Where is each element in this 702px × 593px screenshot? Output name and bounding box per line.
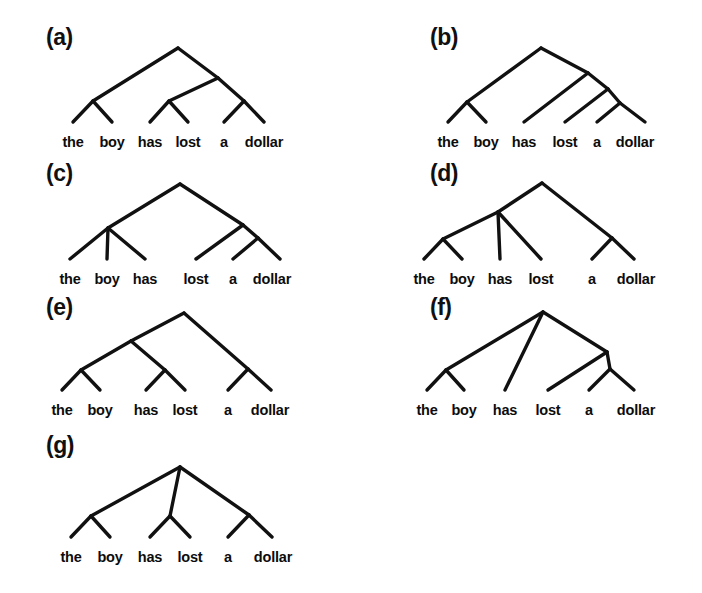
- leaf-word-c-0: the: [59, 271, 80, 287]
- leaf-word-d-3: lost: [529, 271, 554, 287]
- tree-edge-g-4: [170, 516, 190, 537]
- tree-edge-c-1: [107, 228, 108, 259]
- tree-edge-b-1: [467, 102, 486, 122]
- tree-edge-b-0: [448, 102, 467, 122]
- panel-label-b: (b): [430, 24, 458, 51]
- leaf-word-g-0: the: [60, 549, 81, 565]
- tree-edge-e-6: [131, 313, 184, 341]
- leaf-word-g-2: has: [138, 549, 162, 565]
- tree-edge-e-9: [184, 313, 248, 369]
- leaf-word-e-3: lost: [173, 402, 198, 418]
- leaf-word-a-5: dollar: [245, 134, 283, 150]
- tree-edge-f-7: [610, 369, 634, 390]
- tree-edge-a-6: [224, 101, 244, 122]
- leaf-word-a-4: a: [220, 134, 228, 150]
- tree-edge-e-8: [248, 369, 271, 390]
- leaf-word-d-5: dollar: [617, 271, 655, 287]
- tree-edge-b-6: [588, 73, 608, 89]
- tree-edge-g-7: [249, 515, 272, 537]
- tree-edge-a-2: [93, 48, 178, 101]
- leaf-word-d-1: boy: [449, 271, 474, 287]
- leaf-word-g-1: boy: [97, 549, 122, 565]
- tree-edge-g-3: [150, 516, 170, 537]
- tree-edge-b-9: [608, 89, 620, 103]
- panel-label-c: (c): [46, 160, 73, 187]
- tree-edge-d-7: [612, 238, 634, 259]
- leaf-word-f-1: boy: [451, 402, 476, 418]
- leaf-word-f-5: dollar: [617, 402, 655, 418]
- tree-edge-d-0: [424, 239, 443, 259]
- leaf-word-c-3: lost: [184, 271, 209, 287]
- tree-edge-f-5: [548, 352, 607, 390]
- tree-edge-e-2: [81, 341, 131, 370]
- tree-edge-a-0: [73, 101, 93, 122]
- tree-edge-b-8: [620, 103, 645, 122]
- tree-edge-d-6: [592, 238, 612, 259]
- tree-edge-f-0: [427, 370, 446, 390]
- tree-edge-e-7: [228, 369, 248, 390]
- leaf-word-e-1: boy: [87, 402, 112, 418]
- tree-edge-a-1: [93, 101, 112, 122]
- tree-edge-c-0: [70, 228, 108, 259]
- tree-edge-d-8: [542, 183, 612, 238]
- tree-edge-d-4: [498, 212, 541, 259]
- tree-edge-e-1: [81, 370, 100, 390]
- tree-edge-a-5: [169, 78, 218, 101]
- leaf-word-b-4: a: [593, 134, 601, 150]
- leaf-word-e-4: a: [224, 402, 232, 418]
- tree-edge-b-7: [597, 103, 620, 122]
- tree-edges-c: [70, 184, 280, 259]
- tree-edge-g-0: [71, 516, 91, 537]
- tree-edge-g-5: [170, 467, 180, 516]
- panel-label-e: (e): [46, 294, 73, 321]
- tree-edge-f-1: [446, 370, 464, 390]
- leaf-word-c-1: boy: [94, 271, 119, 287]
- tree-edge-a-7: [244, 101, 264, 122]
- tree-edge-d-2: [443, 212, 498, 239]
- tree-edges-e: [62, 313, 271, 390]
- leaf-word-g-4: a: [224, 549, 232, 565]
- leaf-word-e-5: dollar: [251, 402, 289, 418]
- tree-edge-c-4: [196, 225, 243, 259]
- tree-edge-a-4: [169, 101, 188, 122]
- tree-edges-d: [424, 183, 634, 259]
- tree-edges-b: [448, 48, 645, 122]
- tree-edge-a-8: [218, 78, 244, 101]
- tree-edge-e-5: [131, 341, 165, 370]
- leaf-word-d-0: the: [413, 271, 434, 287]
- leaf-word-b-3: lost: [553, 134, 578, 150]
- tree-edge-c-8: [243, 225, 258, 238]
- tree-figure-canvas: (a)theboyhaslostadollar(b)theboyhaslosta…: [0, 0, 702, 593]
- leaf-word-b-0: the: [437, 134, 458, 150]
- tree-edge-c-2: [108, 228, 145, 259]
- leaf-word-g-5: dollar: [254, 549, 292, 565]
- tree-edge-c-7: [258, 238, 280, 259]
- tree-edge-c-3: [108, 184, 180, 228]
- leaf-word-d-2: has: [488, 271, 512, 287]
- tree-edge-c-6: [233, 238, 258, 259]
- tree-edge-d-3: [498, 212, 500, 259]
- leaf-word-g-3: lost: [178, 549, 203, 565]
- tree-edge-f-6: [589, 369, 610, 390]
- leaf-word-b-1: boy: [473, 134, 498, 150]
- tree-edge-g-2: [91, 467, 180, 516]
- leaf-word-d-4: a: [588, 271, 596, 287]
- tree-edge-g-8: [180, 467, 249, 515]
- leaf-word-c-5: dollar: [253, 271, 291, 287]
- leaf-word-a-0: the: [62, 134, 83, 150]
- tree-edge-e-3: [146, 370, 165, 390]
- tree-edge-d-1: [443, 239, 462, 259]
- tree-edges-g: [71, 467, 272, 537]
- leaf-word-b-2: has: [512, 134, 536, 150]
- leaf-word-c-4: a: [229, 271, 237, 287]
- tree-edge-c-5: [180, 184, 243, 225]
- leaf-word-f-2: has: [493, 402, 517, 418]
- leaf-word-f-0: the: [416, 402, 437, 418]
- tree-edge-e-4: [165, 370, 185, 390]
- tree-edge-f-8: [607, 352, 610, 369]
- tree-edges-a: [73, 48, 264, 122]
- tree-edge-b-4: [541, 48, 588, 73]
- tree-edge-e-0: [62, 370, 81, 390]
- panel-label-g: (g): [46, 432, 74, 459]
- tree-edges-f: [427, 312, 634, 390]
